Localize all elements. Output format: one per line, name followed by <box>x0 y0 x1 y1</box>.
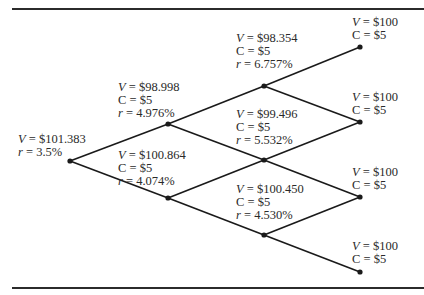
node-label: V = $100.864C = $5r = 4.074% <box>118 149 186 188</box>
node-label: V = $98.354C = $5r = 6.757% <box>236 32 298 71</box>
node-label-line: r = 6.757% <box>236 58 298 71</box>
node-label: V = $100C = $5 <box>352 166 398 192</box>
node-label-line: r = 4.976% <box>118 107 180 120</box>
node-label-line: r = 4.530% <box>236 209 304 222</box>
node-label: V = $100C = $5 <box>352 16 398 42</box>
node-label: V = $100.450C = $5r = 4.530% <box>236 183 304 222</box>
node-label-line: r = 4.074% <box>118 175 186 188</box>
tree-node-dot <box>67 158 72 163</box>
node-label: V = $100C = $5 <box>352 240 398 266</box>
tree-node-dot <box>261 83 266 88</box>
tree-node-dot <box>165 195 170 200</box>
node-label: V = $98.998C = $5r = 4.976% <box>118 81 180 120</box>
node-label: V = $100C = $5 <box>352 91 398 117</box>
tree-node-dot <box>357 119 362 124</box>
node-label-line: r = 5.532% <box>236 134 298 147</box>
node-label-line: C = $5 <box>352 104 398 117</box>
tree-node-dot <box>165 121 170 126</box>
tree-edge <box>264 235 360 272</box>
tree-node-dot <box>261 157 266 162</box>
tree-node-dot <box>261 232 266 237</box>
tree-edges <box>70 47 360 272</box>
node-label-line: C = $5 <box>352 29 398 42</box>
node-label-line: C = $5 <box>352 179 398 192</box>
tree-node-dot <box>357 269 362 274</box>
bottom-rule <box>12 287 424 289</box>
node-label-line: C = $5 <box>352 253 398 266</box>
node-label: V = $99.496C = $5r = 5.532% <box>236 108 298 147</box>
tree-node-dot <box>357 194 362 199</box>
node-label: V = $101.383r = 3.5% <box>18 133 86 159</box>
tree-nodes <box>67 44 362 274</box>
tree-node-dot <box>357 44 362 49</box>
node-label-line: r = 3.5% <box>18 146 86 159</box>
